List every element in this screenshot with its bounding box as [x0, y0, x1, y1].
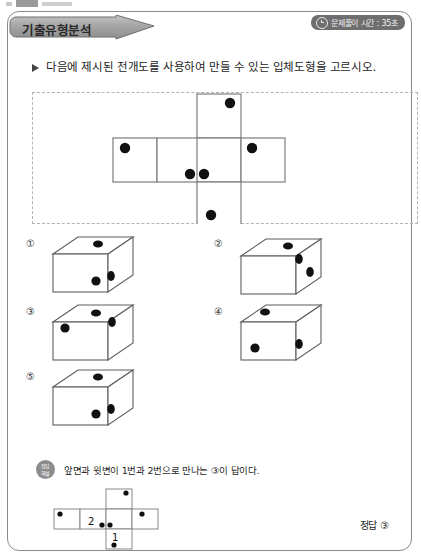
snet-cell-right — [132, 509, 158, 529]
snet-label-2: 2 — [88, 516, 94, 527]
cube3-dot-right — [108, 317, 116, 327]
net-dot-right — [247, 143, 257, 153]
artifact-mark-3 — [42, 2, 72, 6]
choice-number-2: ② — [214, 238, 223, 249]
cube4-dot-top — [260, 308, 270, 315]
choice-option-2[interactable]: ② — [214, 234, 384, 296]
snet-dot-left — [57, 511, 62, 516]
final-answer-label: 정답 — [360, 520, 378, 531]
cube5-dot-right — [107, 404, 115, 414]
choice-option-4[interactable]: ④ — [214, 302, 384, 364]
cube3-dot-top — [91, 309, 101, 316]
choice-number-1: ① — [26, 238, 35, 249]
section-banner-label: 기출유형분석 — [22, 20, 92, 39]
final-answer: 정답 ③ — [360, 517, 389, 532]
choice-number-5: ⑤ — [26, 371, 35, 382]
triangle-right-icon — [32, 64, 39, 72]
cube2-dot-right-upper — [295, 254, 303, 264]
choice-option-1[interactable]: ① — [26, 234, 196, 296]
scan-artifact-strip — [6, 0, 86, 8]
cube3-dot-front — [60, 323, 69, 332]
net-cell-left — [113, 138, 157, 182]
snet-dot-right — [139, 511, 144, 516]
snet-dot-top — [123, 490, 128, 495]
snet-dot-center — [107, 522, 112, 527]
cube5-dot-top — [93, 373, 103, 380]
answer-explanation-badge: 정답 해설 — [36, 460, 55, 479]
net-dot-top — [225, 98, 235, 108]
cube-illustration-3 — [48, 302, 144, 364]
artifact-mark-2 — [16, 0, 38, 7]
solution-net-diagram: 2 1 — [44, 488, 174, 550]
cube1-dot-top — [93, 240, 103, 247]
snet-cell-bottom — [106, 529, 132, 549]
cube4-dot-right — [295, 339, 303, 349]
prompt-text: 다음에 제시된 전개도를 사용하여 만들 수 있는 입체도형을 고르시오. — [46, 60, 376, 75]
cube1-dot-front — [91, 276, 100, 285]
timer-label: 문제풀이 시간 : 35초 — [331, 17, 398, 28]
cube2-dot-right-lower — [306, 267, 314, 277]
cube5-dot-front — [91, 409, 100, 418]
final-answer-value: ③ — [380, 520, 389, 531]
cube-illustration-1 — [48, 234, 144, 296]
net-cell-right — [241, 138, 285, 182]
cube-net-diagram — [112, 89, 327, 224]
cube-illustration-4 — [236, 302, 332, 364]
timer-badge: 문제풀이 시간 : 35초 — [311, 15, 405, 30]
cube1-dot-right — [107, 271, 115, 281]
cube-illustration-2 — [236, 234, 332, 300]
net-dot-center-left — [185, 169, 195, 179]
cube-illustration-5 — [48, 367, 144, 429]
choice-option-5[interactable]: ⑤ — [26, 367, 196, 429]
net-dot-left — [120, 143, 130, 153]
snet-cell-left — [54, 509, 80, 529]
snet-dot-center-left — [99, 522, 104, 527]
snet-dot-bottom — [111, 542, 116, 547]
figure-panel — [32, 92, 418, 224]
choice-option-3[interactable]: ③ — [26, 302, 196, 364]
choice-number-3: ③ — [26, 306, 35, 317]
net-dot-bottom — [206, 210, 216, 220]
artifact-mark-1 — [6, 2, 12, 6]
cube4-dot-front — [250, 343, 259, 352]
snet-label-1: 1 — [112, 532, 118, 543]
badge-line-2: 해설 — [41, 470, 50, 477]
prompt: 다음에 제시된 전개도를 사용하여 만들 수 있는 입체도형을 고르시오. — [32, 60, 412, 75]
answer-explanation-text: 앞면과 윗변이 1번과 2번으로 만나는 ③이 답이다. — [64, 463, 259, 477]
cube2-dot-top — [283, 242, 293, 249]
net-cell-bottom — [197, 182, 241, 224]
net-dot-center — [199, 169, 209, 179]
choice-number-4: ④ — [214, 306, 223, 317]
worksheet-card: 기출유형분석 문제풀이 시간 : 35초 다음에 제시된 전개도를 사용하여 만… — [7, 11, 412, 551]
clock-icon — [316, 17, 328, 29]
